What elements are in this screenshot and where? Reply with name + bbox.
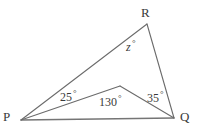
- vertex-label-P: P: [3, 110, 10, 123]
- degree-symbol-130: °: [118, 93, 122, 103]
- vertex-label-Q: Q: [180, 110, 189, 123]
- angle-label-35: 35°: [147, 90, 164, 104]
- angle-value-130: 130: [99, 95, 117, 109]
- degree-symbol-35: °: [160, 89, 164, 99]
- degree-symbol-z: °: [132, 38, 136, 48]
- geometry-figure: R P Q z° 25° 130° 35°: [0, 0, 198, 137]
- vertex-label-R: R: [141, 6, 150, 19]
- angle-label-130: 130°: [99, 94, 122, 108]
- angle-label-z: z°: [126, 39, 135, 53]
- geometry-canvas: [0, 0, 198, 137]
- angle-value-z: z: [126, 40, 131, 54]
- angle-label-25: 25°: [60, 89, 77, 103]
- angle-value-25: 25: [60, 90, 72, 104]
- degree-symbol-25: °: [73, 88, 77, 98]
- angle-value-35: 35: [147, 91, 159, 105]
- segment-PQ: [21, 118, 174, 120]
